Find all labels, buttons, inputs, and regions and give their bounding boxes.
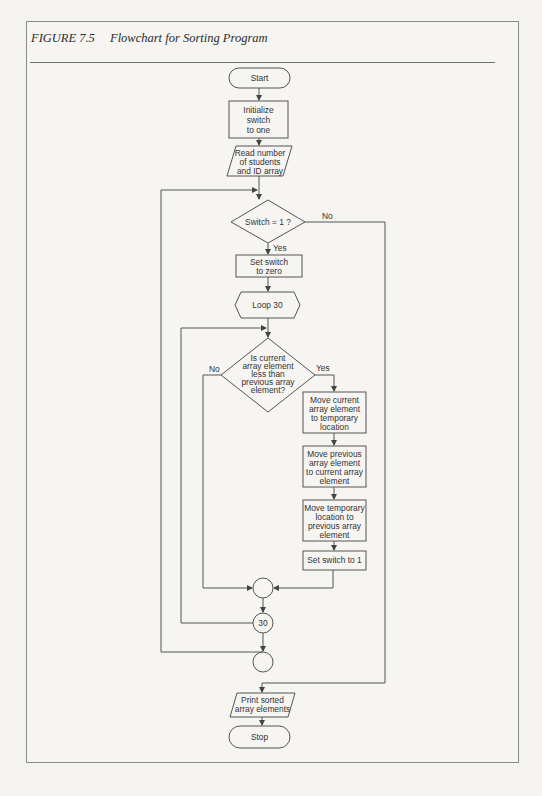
compare-yes-label: Yes — [316, 363, 330, 373]
switch-decision-label: Switch = 1 ? — [245, 217, 291, 227]
compare-no-label: No — [209, 364, 220, 374]
stop-label: Stop — [251, 732, 269, 742]
start-label: Start — [251, 73, 269, 83]
print-line-2: array elements — [235, 704, 290, 714]
init-line-1: Initialize — [243, 105, 274, 115]
connector-30-label: 30 — [258, 618, 268, 628]
connector-outer — [253, 652, 273, 672]
switch-no-label: No — [322, 211, 333, 221]
loop-label: Loop 30 — [252, 300, 283, 310]
connector-inner — [253, 578, 273, 598]
set-one-label: Set switch to 1 — [307, 555, 362, 565]
move1-line-4: location — [320, 422, 349, 432]
read-line-3: and ID array — [237, 166, 284, 176]
switch-yes-label: Yes — [273, 243, 287, 253]
set-zero-line-2: to zero — [256, 266, 282, 276]
init-line-3: to one — [247, 125, 271, 135]
move2-line-4: element — [320, 476, 350, 486]
init-line-2: switch — [247, 115, 271, 125]
flowchart: Start Initialize switch to one Read numb… — [0, 0, 542, 796]
move3-line-4: element — [320, 530, 350, 540]
compare-line-5: element? — [251, 385, 286, 395]
